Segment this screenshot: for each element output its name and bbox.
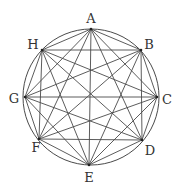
edge-a-b xyxy=(91,29,141,50)
edge-a-d xyxy=(91,29,142,140)
vertex-label-h: H xyxy=(27,38,38,51)
edge-d-e xyxy=(89,140,142,165)
edge-c-d xyxy=(142,97,157,140)
vertex-label-c: C xyxy=(162,93,172,106)
vertex-c xyxy=(156,96,159,99)
vertex-a xyxy=(90,28,93,31)
edge-d-f xyxy=(39,139,142,140)
edge-f-h xyxy=(39,50,42,139)
edge-c-h xyxy=(42,50,157,97)
edge-b-d xyxy=(141,50,142,140)
edge-c-f xyxy=(39,97,157,139)
vertex-label-a: A xyxy=(86,12,95,25)
edge-e-f xyxy=(39,139,89,165)
edge-d-g xyxy=(25,97,142,140)
vertex-h xyxy=(41,49,44,52)
graph-edges xyxy=(25,29,157,165)
vertex-d xyxy=(141,139,144,142)
complete-graph-diagram xyxy=(0,0,179,191)
vertex-label-e: E xyxy=(84,171,94,184)
vertex-label-b: B xyxy=(144,38,154,51)
edge-b-g xyxy=(25,50,141,97)
vertex-label-f: F xyxy=(31,141,40,154)
edge-f-g xyxy=(25,97,39,139)
vertex-e xyxy=(88,164,91,167)
edge-a-h xyxy=(42,29,91,50)
vertex-label-g: G xyxy=(9,92,19,105)
edge-e-h xyxy=(42,50,89,165)
vertex-b xyxy=(140,49,143,52)
edge-e-g xyxy=(25,97,89,165)
vertex-g xyxy=(24,96,27,99)
edge-d-h xyxy=(42,50,142,140)
vertex-label-d: D xyxy=(145,144,155,157)
edge-b-e xyxy=(89,50,141,165)
